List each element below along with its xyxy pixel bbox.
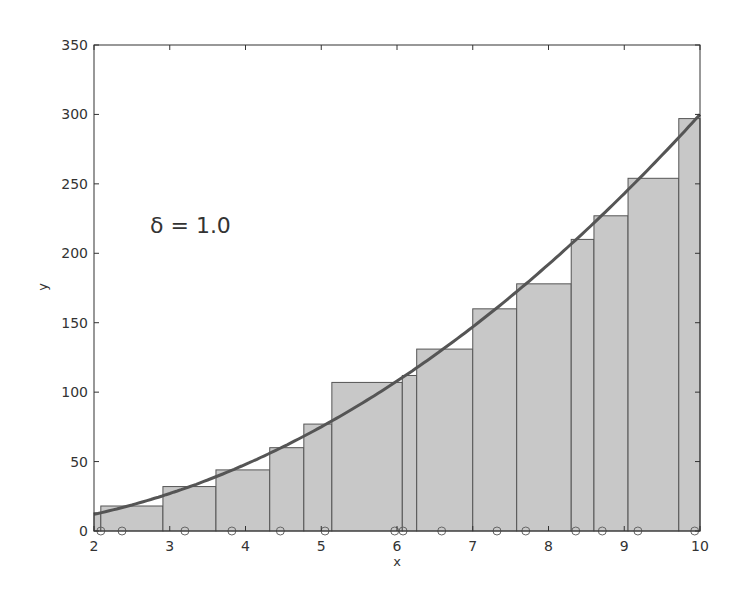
y-tick-label: 300 bbox=[61, 106, 88, 122]
x-axis-label: x bbox=[393, 554, 401, 569]
x-tick-label: 2 bbox=[90, 538, 99, 554]
x-tick-label: 6 bbox=[393, 538, 402, 554]
bar-group bbox=[94, 119, 700, 531]
bar bbox=[517, 284, 572, 531]
bar bbox=[628, 178, 679, 531]
x-tick-label: 5 bbox=[317, 538, 326, 554]
y-tick-label: 250 bbox=[61, 176, 88, 192]
bar bbox=[402, 375, 416, 531]
bar bbox=[571, 239, 594, 531]
bar bbox=[417, 349, 473, 531]
delta-annotation: δ = 1.0 bbox=[150, 213, 231, 238]
bar bbox=[216, 470, 270, 531]
bar bbox=[304, 424, 332, 531]
y-tick-label: 100 bbox=[61, 384, 88, 400]
x-tick-label: 8 bbox=[544, 538, 553, 554]
x-tick-label: 4 bbox=[241, 538, 250, 554]
y-tick-label: 350 bbox=[61, 37, 88, 53]
chart: 2345678910 050100150200250300350 x y δ =… bbox=[0, 0, 746, 601]
x-tick-label: 3 bbox=[165, 538, 174, 554]
bar bbox=[332, 382, 402, 531]
bar bbox=[679, 119, 700, 531]
y-tick-label: 0 bbox=[79, 523, 88, 539]
y-axis-label: y bbox=[35, 283, 50, 291]
bar bbox=[594, 216, 628, 531]
bar bbox=[473, 309, 517, 531]
y-tick-label: 200 bbox=[61, 245, 88, 261]
bar bbox=[270, 448, 304, 531]
x-tick-label: 9 bbox=[620, 538, 629, 554]
x-tick-label: 10 bbox=[691, 538, 709, 554]
y-tick-label: 50 bbox=[70, 454, 88, 470]
x-tick-label: 7 bbox=[468, 538, 477, 554]
y-tick-label: 150 bbox=[61, 315, 88, 331]
